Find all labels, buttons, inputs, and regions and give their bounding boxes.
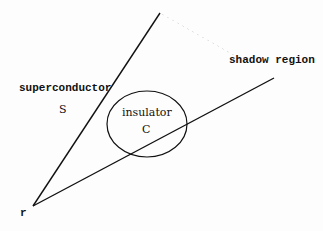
insulator-label: insulator (122, 106, 172, 119)
superconductor-symbol: S (59, 103, 67, 116)
insulator-symbol: C (142, 123, 150, 136)
shadow-region-diagram: superconductor S insulator C shadow regi… (0, 0, 323, 231)
shadow-region-label: shadow region (229, 54, 315, 66)
superconductor-label: superconductor (19, 82, 111, 94)
point-r-label: r (20, 207, 27, 219)
